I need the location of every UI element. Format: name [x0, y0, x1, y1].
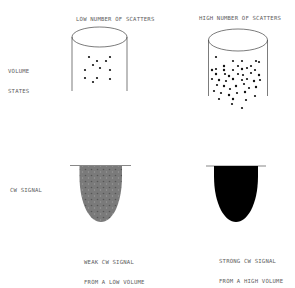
high-scatter-dots [211, 56, 261, 109]
caption-line: FROM A LOW VOLUME [84, 279, 145, 286]
low-scatter-dots [84, 56, 111, 83]
caption-line: FROM A HIGH VOLUME [219, 278, 283, 285]
strong-cw-signal-shape [206, 166, 266, 222]
weak-cw-signal-shape [70, 166, 131, 223]
low-volume-cylinder [72, 27, 127, 91]
